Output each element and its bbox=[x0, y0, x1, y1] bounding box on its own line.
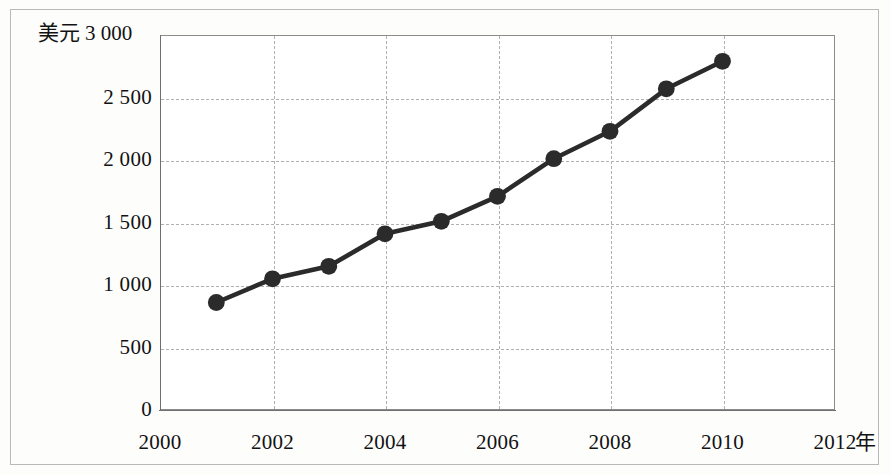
y-axis-unit-text: 美元 bbox=[38, 21, 80, 45]
y-axis-line bbox=[160, 35, 161, 411]
gridline-vertical bbox=[274, 36, 275, 409]
gridline-horizontal bbox=[161, 161, 834, 162]
chart-figure: 05001 0001 5002 0002 500 美元3 000 年 20002… bbox=[0, 0, 891, 475]
gridline-horizontal bbox=[161, 99, 834, 100]
gridline-horizontal bbox=[161, 286, 834, 287]
y-axis-tick-label: 2 000 bbox=[103, 149, 152, 170]
x-axis-tick-label: 2004 bbox=[363, 432, 406, 453]
gridline-vertical bbox=[499, 36, 500, 409]
x-axis-tick-label: 2008 bbox=[588, 432, 631, 453]
x-axis-line bbox=[159, 410, 836, 411]
x-axis-unit-label: 年 bbox=[855, 432, 876, 453]
plot-area bbox=[160, 35, 835, 410]
y-axis-tick-label: 2 500 bbox=[103, 87, 152, 108]
y-axis-tick-label: 1 000 bbox=[103, 274, 152, 295]
gridline-vertical bbox=[386, 36, 387, 409]
x-axis-tick-label: 2010 bbox=[701, 432, 744, 453]
y-axis-tick-label: 1 500 bbox=[103, 212, 152, 233]
x-axis-tick-label: 2012 bbox=[813, 432, 856, 453]
y-axis-tick-labels: 05001 0001 5002 0002 500 bbox=[0, 0, 152, 475]
y-axis-top-tick-label: 3 000 bbox=[85, 21, 132, 45]
y-axis-tick-label: 500 bbox=[120, 337, 152, 358]
gridline-vertical bbox=[724, 36, 725, 409]
x-axis-tick-label: 2000 bbox=[138, 432, 181, 453]
y-axis-unit-label: 美元3 000 bbox=[38, 23, 132, 44]
gridline-vertical bbox=[611, 36, 612, 409]
y-axis-tick-label: 0 bbox=[141, 399, 152, 420]
gridline-horizontal bbox=[161, 224, 834, 225]
x-axis-tick-label: 2006 bbox=[476, 432, 519, 453]
gridline-horizontal bbox=[161, 349, 834, 350]
x-axis-tick-label: 2002 bbox=[251, 432, 294, 453]
